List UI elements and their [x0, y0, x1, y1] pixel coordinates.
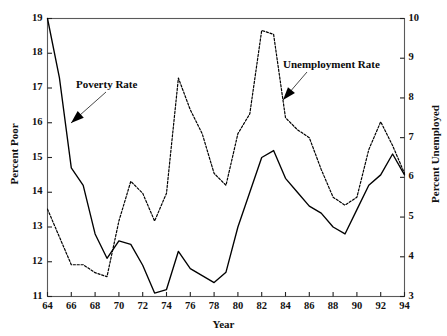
- chart-figure: Percent Poor Percent Unemployed Year Pov…: [0, 0, 447, 336]
- x-tick-68: 68: [84, 300, 106, 311]
- unemployment-rate-annotation: Unemployment Rate: [283, 58, 380, 70]
- unemployment-rate-arrow: [283, 72, 307, 100]
- y-tick-left-16: 16: [21, 116, 43, 127]
- x-tick-94: 94: [394, 300, 416, 311]
- plot-area: [0, 0, 447, 336]
- y-tick-right-5: 5: [409, 210, 431, 221]
- x-axis-title: Year: [0, 318, 447, 330]
- x-tick-76: 76: [179, 300, 201, 311]
- x-tick-92: 92: [370, 300, 392, 311]
- y-tick-left-19: 19: [21, 12, 43, 23]
- y-tick-left-15: 15: [21, 151, 43, 162]
- x-tick-88: 88: [322, 300, 344, 311]
- poverty-rate-annotation: Poverty Rate: [76, 78, 137, 90]
- y-tick-right-9: 9: [409, 51, 431, 62]
- poverty-rate-arrow: [71, 92, 106, 123]
- y-tick-left-18: 18: [21, 46, 43, 57]
- x-tick-86: 86: [298, 300, 320, 311]
- x-tick-80: 80: [227, 300, 249, 311]
- y-tick-right-7: 7: [409, 131, 431, 142]
- x-tick-84: 84: [275, 300, 297, 311]
- y-axis-right-title: Percent Unemployed: [429, 104, 441, 204]
- x-tick-64: 64: [37, 300, 59, 311]
- y-tick-right-6: 6: [409, 170, 431, 181]
- y-tick-left-14: 14: [21, 185, 43, 196]
- y-tick-right-8: 8: [409, 91, 431, 102]
- y-tick-left-12: 12: [21, 255, 43, 266]
- y-tick-left-13: 13: [21, 220, 43, 231]
- y-axis-left-title: Percent Poor: [8, 104, 20, 204]
- y-tick-right-4: 4: [409, 250, 431, 261]
- y-tick-right-10: 10: [409, 12, 431, 23]
- x-tick-74: 74: [156, 300, 178, 311]
- x-tick-90: 90: [346, 300, 368, 311]
- x-tick-82: 82: [251, 300, 273, 311]
- x-tick-78: 78: [203, 300, 225, 311]
- x-tick-72: 72: [132, 300, 154, 311]
- x-tick-66: 66: [60, 300, 82, 311]
- x-tick-70: 70: [108, 300, 130, 311]
- y-tick-left-17: 17: [21, 81, 43, 92]
